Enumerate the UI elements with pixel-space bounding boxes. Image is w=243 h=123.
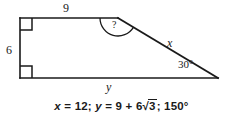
angle-label-30-degrees: 30° [178,59,193,70]
side-label-left: 6 [6,44,12,56]
side-label-hypotenuse: x [167,37,172,49]
caption-y-value: = 9 + 6 [102,100,143,112]
caption-x-variable: x [54,100,61,112]
angle-label-unknown: ? [112,20,116,30]
angle-arc-unknown [100,18,133,36]
right-angle-marker-bottom-left [20,66,32,78]
caption-y-variable: y [95,100,102,112]
right-angle-marker-top-left [20,18,32,30]
answer-caption: x = 12; y = 9 + 6√3; 150° [0,100,243,112]
side-label-top: 9 [63,2,69,14]
side-label-bottom: y [106,81,111,93]
caption-x-value: = 12; [61,100,95,112]
radical-expression: √3 [143,100,157,112]
radicand-value: 3 [148,99,157,112]
caption-angle-answer: ; 150° [157,100,189,112]
